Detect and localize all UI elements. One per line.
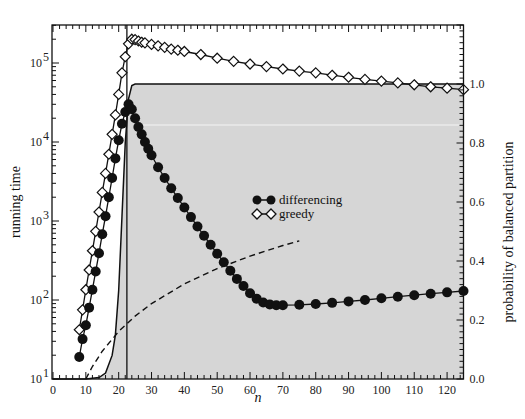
y2-tick-label: 0.6 — [470, 195, 485, 209]
differencing-data-point — [278, 300, 288, 310]
greedy-data-point — [344, 72, 354, 82]
differencing-data-point — [219, 257, 229, 267]
y2-tick-label: 0.0 — [470, 372, 485, 386]
y2-tick-label: 0.2 — [470, 313, 485, 327]
differencing-data-point — [147, 150, 157, 160]
y2-tick-label: 0.8 — [470, 136, 485, 150]
y-tick-exponent: 2 — [43, 287, 49, 301]
differencing-data-point — [81, 320, 91, 330]
greedy-data-point — [311, 68, 321, 78]
y-axis-title: running time — [8, 166, 23, 238]
differencing-data-point — [186, 212, 196, 222]
differencing-data-point — [117, 119, 127, 129]
filled-circle-marker-icon — [267, 196, 276, 205]
y-tick-label: 10 — [30, 214, 42, 228]
legend-label-differencing: differencing — [279, 192, 343, 207]
probability-fill-area — [53, 84, 464, 379]
differencing-data-point — [327, 298, 337, 308]
differencing-data-point — [311, 299, 321, 309]
y-axis-ticks: 101102103104105 — [30, 25, 59, 386]
x-tick-label: 100 — [372, 383, 390, 397]
y-tick-label: 10 — [30, 56, 42, 70]
y2-tick-label: 0.4 — [470, 254, 485, 268]
differencing-data-point — [110, 153, 120, 163]
greedy-data-point — [261, 62, 271, 72]
differencing-data-point — [179, 203, 189, 213]
greedy-data-point — [327, 70, 337, 80]
greedy-data-point — [110, 110, 120, 120]
x-tick-label: 20 — [113, 383, 125, 397]
chart-canvas: 0102030405060708090100110120 10110210310… — [0, 0, 525, 419]
y-tick-label: 10 — [30, 293, 42, 307]
greedy-data-point — [278, 64, 288, 74]
differencing-data-point — [442, 287, 452, 297]
greedy-data-point — [245, 59, 255, 69]
differencing-data-point — [393, 292, 403, 302]
differencing-data-point — [360, 295, 370, 305]
y2-axis-title: probability of balanced partition — [501, 142, 516, 323]
differencing-data-point — [101, 211, 111, 221]
x-tick-label: 120 — [438, 383, 456, 397]
y-tick-label: 10 — [30, 372, 42, 386]
differencing-data-point — [94, 248, 104, 258]
legend-label-greedy: greedy — [279, 206, 315, 221]
differencing-data-point — [294, 300, 304, 310]
differencing-data-point — [87, 285, 97, 295]
differencing-data-point — [166, 183, 176, 193]
x-tick-label: 90 — [343, 383, 355, 397]
differencing-data-point — [78, 334, 88, 344]
y-tick-label: 10 — [30, 135, 42, 149]
greedy-data-point — [120, 52, 130, 62]
differencing-data-point — [104, 192, 114, 202]
differencing-data-point — [344, 296, 354, 306]
differencing-data-point — [173, 193, 183, 203]
differencing-data-point — [409, 290, 419, 300]
differencing-data-point — [376, 293, 386, 303]
x-tick-label: 40 — [178, 383, 190, 397]
differencing-data-point — [160, 173, 170, 183]
greedy-data-point — [212, 53, 222, 63]
differencing-data-point — [107, 173, 117, 183]
filled-circle-marker-icon — [253, 196, 262, 205]
differencing-data-point — [426, 289, 436, 299]
y2-tick-label: 1.0 — [470, 77, 485, 91]
greedy-data-point — [360, 74, 370, 84]
y-tick-exponent: 5 — [43, 50, 49, 64]
differencing-data-point — [130, 113, 140, 123]
x-tick-label: 80 — [310, 383, 322, 397]
differencing-data-point — [97, 229, 107, 239]
x-axis-title: n — [255, 390, 262, 405]
x-tick-label: 50 — [211, 383, 223, 397]
differencing-data-point — [91, 266, 101, 276]
x-tick-label: 0 — [50, 383, 56, 397]
greedy-data-point — [294, 66, 304, 76]
differencing-data-point — [225, 266, 235, 276]
differencing-data-point — [74, 352, 84, 362]
differencing-data-point — [127, 104, 137, 114]
differencing-data-point — [206, 240, 216, 250]
greedy-data-point — [196, 50, 206, 60]
y-tick-exponent: 3 — [43, 208, 49, 222]
x-tick-label: 10 — [80, 383, 92, 397]
greedy-data-point — [117, 68, 127, 78]
differencing-data-point — [114, 135, 124, 145]
differencing-data-point — [199, 231, 209, 241]
x-tick-label: 110 — [405, 383, 423, 397]
x-tick-label: 30 — [146, 383, 158, 397]
x-tick-label: 70 — [277, 383, 289, 397]
differencing-data-point — [84, 303, 94, 313]
greedy-data-point — [229, 56, 239, 66]
differencing-data-point — [192, 222, 202, 232]
greedy-data-point — [114, 89, 124, 99]
differencing-data-point — [153, 162, 163, 172]
differencing-data-point — [212, 249, 222, 259]
y-tick-exponent: 1 — [43, 366, 49, 380]
y-tick-exponent: 4 — [43, 129, 49, 143]
